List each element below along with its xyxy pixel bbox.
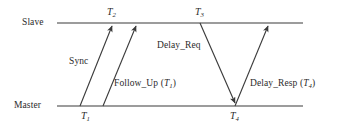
- follow-up-message-label: Follow_Up (T1): [114, 78, 176, 88]
- timestamp-t1-base: T: [81, 110, 87, 121]
- delay-resp-arrow: [235, 26, 268, 106]
- ptp-timing-diagram: Slave Master T2 T3 T1 T4 Sync Follow_Up …: [0, 0, 337, 132]
- follow-up-arrow: [103, 26, 136, 106]
- delay-resp-message-label: Delay_Resp (T4): [250, 78, 315, 88]
- timestamp-t2-sub: 2: [113, 11, 116, 18]
- delay-resp-label-var: T: [303, 78, 308, 88]
- delay-resp-label-text: Delay_Resp (: [250, 78, 303, 88]
- delay-resp-label-tail: ): [312, 78, 315, 88]
- follow-up-label-text: Follow_Up (: [114, 78, 164, 88]
- timestamp-t4: T4: [230, 110, 239, 121]
- timestamp-t3-sub: 3: [201, 11, 204, 18]
- delay-resp-label-var-sub: 4: [309, 82, 313, 89]
- delay-req-message-label: Delay_Req: [157, 40, 201, 50]
- timestamp-t4-base: T: [230, 110, 236, 121]
- follow-up-label-tail: ): [173, 78, 176, 88]
- sync-arrow: [80, 26, 112, 106]
- timestamp-t2-base: T: [107, 6, 113, 17]
- timestamp-t1: T1: [81, 110, 90, 121]
- timestamp-t3: T3: [195, 6, 204, 17]
- timestamp-t2: T2: [107, 6, 116, 17]
- sync-message-label: Sync: [69, 56, 88, 66]
- timestamp-t4-sub: 4: [236, 115, 239, 122]
- master-timeline-label: Master: [14, 100, 41, 110]
- delay-req-arrow: [200, 23, 235, 103]
- diagram-canvas: [0, 0, 337, 132]
- timestamp-t3-base: T: [195, 6, 201, 17]
- slave-timeline-label: Slave: [22, 17, 44, 27]
- timestamp-t1-sub: 1: [87, 115, 90, 122]
- follow-up-label-var-sub: 1: [169, 82, 173, 89]
